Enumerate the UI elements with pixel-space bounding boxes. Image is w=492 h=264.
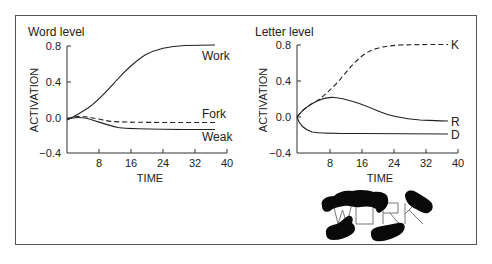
figure-border: [16, 16, 477, 245]
x-axis-label: TIME: [367, 172, 393, 184]
y-tick-label: 0.8: [46, 40, 61, 52]
x-tick-label: 32: [189, 157, 201, 169]
ink-blots: [322, 190, 433, 241]
label-fork: Fork: [202, 107, 227, 121]
y-tick-label: 0.0: [46, 112, 61, 124]
x-tick-label: 16: [125, 157, 137, 169]
x-axis-label: TIME: [137, 172, 163, 184]
figure: Word level 0.8 0.4 0.0 −0.4 8 16 24 32 4…: [0, 0, 492, 264]
x-tick-label: 40: [452, 157, 464, 169]
ink-blot: [326, 216, 355, 240]
line-r: [297, 97, 448, 121]
y-tick-label: −0.4: [39, 147, 61, 159]
ink-blot: [371, 223, 405, 241]
x-tick-label: 16: [356, 157, 368, 169]
letter-level-chart: Letter level 0.8 0.4 0.0 −0.4 8 16 24 32…: [255, 25, 464, 184]
x-tick-label: 24: [388, 157, 400, 169]
x-tick-label: 40: [221, 157, 233, 169]
word-level-chart: Word level 0.8 0.4 0.0 −0.4 8 16 24 32 4…: [28, 25, 233, 184]
word-level-title: Word level: [28, 25, 84, 39]
line-weak: [67, 117, 215, 129]
line-work: [67, 45, 215, 120]
x-tick-label: 8: [96, 157, 102, 169]
line-d: [297, 117, 448, 134]
y-tick-label: 0.4: [46, 76, 61, 88]
y-tick-label: 0.0: [276, 111, 291, 123]
y-tick-label: 0.4: [276, 75, 291, 87]
label-d: D: [451, 128, 460, 142]
line-k: [297, 45, 448, 118]
x-tick-label: 32: [420, 157, 432, 169]
x-tick-label: 24: [157, 157, 169, 169]
label-r: R: [451, 115, 460, 129]
label-weak: Weak: [202, 130, 233, 144]
label-work: Work: [202, 49, 231, 63]
occluded-word-stimulus: [322, 190, 433, 241]
y-axis-label: ACTIVATION: [257, 68, 269, 132]
x-tick-label: 8: [327, 157, 333, 169]
ink-blot: [322, 190, 389, 213]
y-tick-label: −0.4: [269, 147, 291, 159]
letter-level-title: Letter level: [255, 25, 314, 39]
y-tick-label: 0.8: [276, 39, 291, 51]
label-k: K: [451, 38, 459, 52]
y-axis-label: ACTIVATION: [28, 68, 40, 132]
